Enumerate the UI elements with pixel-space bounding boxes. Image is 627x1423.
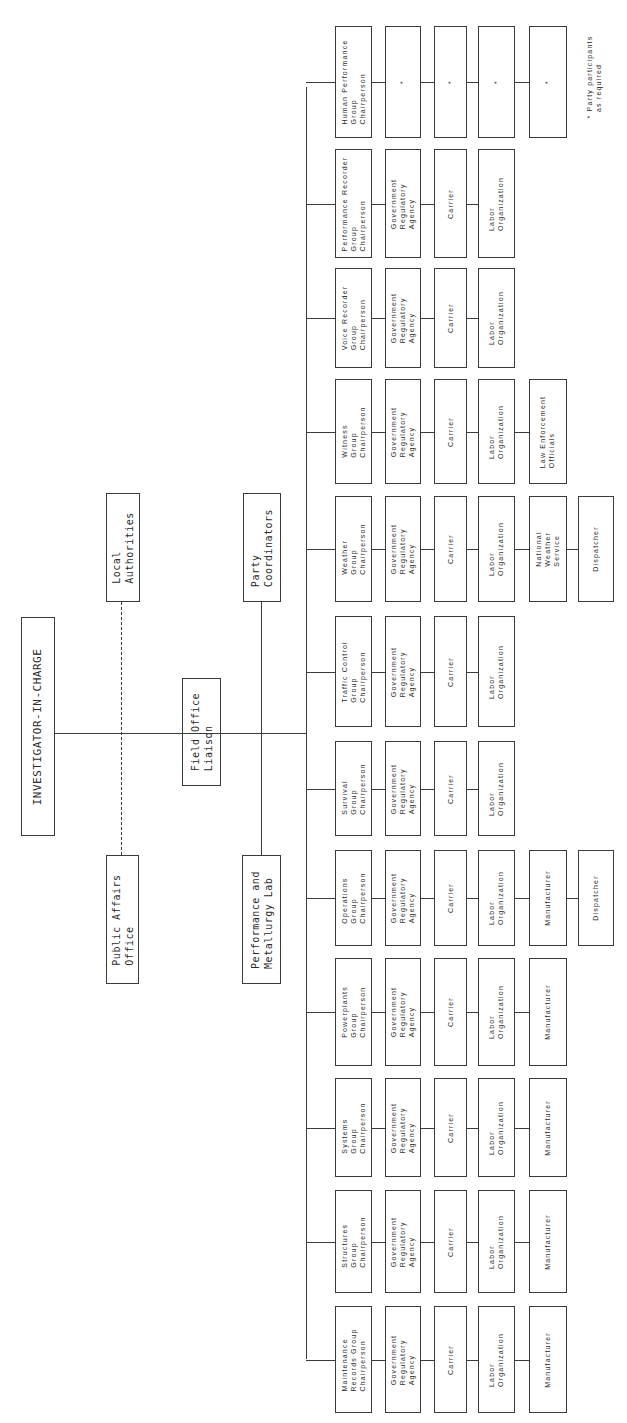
field-office-liaison-label: Field Office Liaison xyxy=(189,693,214,771)
group-connector xyxy=(306,204,335,205)
group-member-box: Government Regulatory Agency xyxy=(385,1190,421,1293)
group-member-box: Government Regulatory Agency xyxy=(385,741,421,836)
group-connector xyxy=(306,1012,335,1013)
member-connector xyxy=(467,1242,478,1243)
group-member-label: Labor Organization xyxy=(488,1332,506,1386)
member-connector xyxy=(372,318,385,319)
party-coordinators-box: Party Coordinators xyxy=(243,493,281,602)
group-member-box: Labor Organization xyxy=(478,149,515,258)
group-chairperson-box: Traffic Control Group Chairperson xyxy=(335,616,372,727)
member-connector xyxy=(515,1128,529,1129)
member-connector xyxy=(515,1242,529,1243)
member-connector xyxy=(421,204,434,205)
member-connector xyxy=(467,432,478,433)
group-member-box: Government Regulatory Agency xyxy=(385,616,421,727)
group-member-box: Carrier xyxy=(434,958,467,1066)
group-member-box: Government Regulatory Agency xyxy=(385,958,421,1066)
group-member-box: Labor Organization xyxy=(478,496,515,602)
group-member-box: Dispatcher xyxy=(578,496,614,602)
group-member-box: Labor Organization xyxy=(478,1306,515,1413)
member-connector xyxy=(467,789,478,790)
group-member-box: Labor Organization xyxy=(478,850,515,946)
group-member-box: Government Regulatory Agency xyxy=(385,496,421,602)
group-chairperson-label: Maintenance Records Group Chairperson xyxy=(340,1328,366,1391)
group-member-box: * xyxy=(478,26,515,138)
public-affairs-label: Public Affairs Office xyxy=(110,874,135,965)
member-connector xyxy=(421,1360,434,1361)
group-member-label: Manufacturer xyxy=(544,1214,553,1270)
group-member-label: Dispatcher xyxy=(592,875,601,920)
member-connector xyxy=(467,898,478,899)
group-member-box: Labor Organization xyxy=(478,268,515,368)
member-connector xyxy=(467,1012,478,1013)
group-member-label: Carrier xyxy=(446,417,455,447)
investigator-in-charge-box: INVESTIGATOR-IN-CHARGE xyxy=(21,617,55,836)
group-chairperson-box: Human Performance Group Chairperson xyxy=(335,26,372,138)
group-chairperson-box: Voice Recorder Group Chairperson xyxy=(335,268,372,368)
public-affairs-box: Public Affairs Office xyxy=(106,855,139,984)
group-member-label: Government Regulatory Agency xyxy=(390,406,416,457)
group-member-label: Labor Organization xyxy=(488,761,506,815)
group-member-label: * xyxy=(446,80,455,84)
group-chairperson-label: Witness Group Chairperson xyxy=(340,406,366,457)
group-member-label: Labor Organization xyxy=(488,291,506,345)
group-member-box: Government Regulatory Agency xyxy=(385,268,421,368)
group-member-label: Government Regulatory Agency xyxy=(390,1334,416,1385)
member-connector xyxy=(421,672,434,673)
member-connector xyxy=(515,549,529,550)
field-office-liaison-box: Field Office Liaison xyxy=(182,678,221,786)
group-member-box: Labor Organization xyxy=(478,616,515,727)
group-member-label: Government Regulatory Agency xyxy=(390,293,416,344)
member-connector xyxy=(467,204,478,205)
member-connector xyxy=(372,898,385,899)
group-member-label: Labor Organization xyxy=(488,522,506,576)
group-chairperson-label: Survival Group Chairperson xyxy=(340,763,366,814)
group-member-box: Carrier xyxy=(434,1306,467,1413)
member-connector xyxy=(372,549,385,550)
member-connector xyxy=(372,1360,385,1361)
group-connector xyxy=(306,1360,335,1361)
connector-party-lab xyxy=(261,602,262,855)
group-chairperson-box: Structures Group Chairperson xyxy=(335,1190,372,1293)
group-member-label: Labor Organization xyxy=(488,1214,506,1268)
member-connector xyxy=(467,549,478,550)
group-member-label: Manufacturer xyxy=(544,1100,553,1156)
member-connector xyxy=(372,1012,385,1013)
group-member-box: Manufacturer xyxy=(529,850,567,946)
group-member-label: * xyxy=(492,80,501,84)
group-member-label: Carrier xyxy=(446,657,455,687)
group-member-label: Carrier xyxy=(446,1227,455,1257)
group-chairperson-label: Operations Group Chairperson xyxy=(340,872,366,923)
group-connector xyxy=(306,898,335,899)
group-chairperson-label: Voice Recorder Group Chairperson xyxy=(340,286,366,351)
footnote: * Party participants as required xyxy=(584,22,606,132)
groups-spine xyxy=(306,87,307,1359)
member-connector xyxy=(515,898,529,899)
group-member-label: Manufacturer xyxy=(544,984,553,1040)
group-chairperson-label: Structures Group Chairperson xyxy=(340,1216,366,1267)
member-connector xyxy=(567,549,578,550)
local-authorities-label: Local Authorities xyxy=(111,512,136,584)
group-chairperson-label: Performance Recorder Group Chairperson xyxy=(340,156,366,251)
member-connector xyxy=(467,1360,478,1361)
dashed-connector-local-public xyxy=(121,602,122,855)
group-chairperson-label: Weather Group Chairperson xyxy=(340,523,366,574)
group-member-box: Manufacturer xyxy=(529,1078,567,1177)
group-member-box: Carrier xyxy=(434,268,467,368)
investigator-in-charge-label: INVESTIGATOR-IN-CHARGE xyxy=(31,648,45,805)
group-chairperson-box: Witness Group Chairperson xyxy=(335,379,372,484)
group-member-label: Government Regulatory Agency xyxy=(390,524,416,575)
group-connector xyxy=(306,789,335,790)
member-connector xyxy=(372,672,385,673)
group-member-label: Carrier xyxy=(446,997,455,1027)
member-connector xyxy=(372,82,385,83)
group-member-box: * xyxy=(529,26,567,138)
member-connector xyxy=(515,82,529,83)
group-member-box: Dispatcher xyxy=(578,850,614,946)
member-connector xyxy=(467,318,478,319)
group-chairperson-label: Traffic Control Group Chairperson xyxy=(340,641,366,703)
member-connector xyxy=(372,432,385,433)
member-connector xyxy=(467,82,478,83)
group-member-box: Carrier xyxy=(434,1190,467,1293)
group-member-box: Carrier xyxy=(434,741,467,836)
